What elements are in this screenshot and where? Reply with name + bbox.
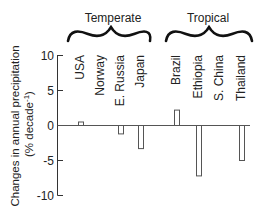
y-axis-title-line1: Changes in annual precipitation xyxy=(9,45,21,206)
category-label-e-russia: E. Russia xyxy=(113,55,127,107)
x-category-labels: USA Norway E. Russia Japan Brazil Ethiop… xyxy=(73,55,248,107)
y-tick-labels: 10 5 0 -5 -10 xyxy=(37,49,55,203)
category-label-s-china: S. China xyxy=(212,55,226,101)
bar-e-russia xyxy=(119,126,124,134)
group-label-tropical: Tropical xyxy=(187,11,229,25)
group-tropical: Tropical xyxy=(166,11,252,41)
category-label-usa: USA xyxy=(73,55,87,80)
brace-tropical-icon xyxy=(166,27,252,41)
brace-temperate-icon xyxy=(68,27,150,41)
y-tick-label-minus5: -5 xyxy=(43,154,54,168)
precipitation-bar-chart: Changes in annual precipitation (% decad… xyxy=(0,0,270,218)
bars xyxy=(79,110,245,176)
category-label-thailand: Thailand xyxy=(234,55,248,101)
bar-thailand xyxy=(240,126,245,161)
y-tick-label-10: 10 xyxy=(41,49,55,63)
y-tick-label-5: 5 xyxy=(47,84,54,98)
category-label-japan: Japan xyxy=(133,55,147,88)
category-label-norway: Norway xyxy=(93,55,107,96)
y-tick-label-0: 0 xyxy=(47,119,54,133)
bar-japan xyxy=(139,126,144,149)
group-label-temperate: Temperate xyxy=(85,11,142,25)
bar-usa xyxy=(79,122,84,126)
category-label-brazil: Brazil xyxy=(169,55,183,85)
bar-brazil xyxy=(175,110,180,125)
bar-ethiopia xyxy=(197,126,202,176)
category-label-ethiopia: Ethiopia xyxy=(191,55,205,99)
group-temperate: Temperate xyxy=(68,11,150,41)
y-axis-title: Changes in annual precipitation (% decad… xyxy=(9,45,35,206)
y-axis-title-line2: (% decade-1) xyxy=(22,91,35,157)
y-tick-label-minus10: -10 xyxy=(37,189,55,203)
